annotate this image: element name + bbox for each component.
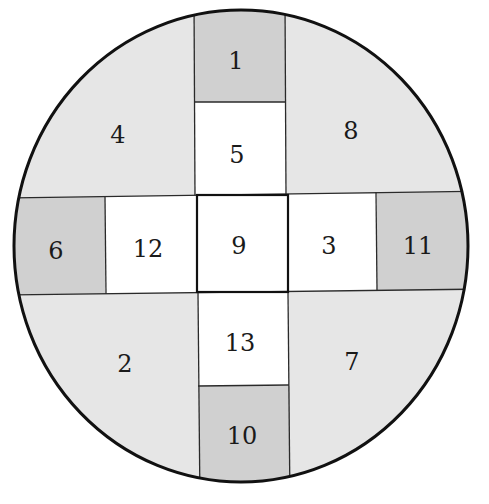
cross-circle-diagram: 1 4 5 8 6 12 9 3 11 2 13 7 10 [0,0,489,504]
label-9: 9 [231,232,246,260]
label-2: 2 [117,350,132,378]
label-5: 5 [229,141,244,169]
label-11: 11 [403,232,434,260]
label-6: 6 [48,237,63,265]
label-4: 4 [110,121,125,149]
label-13: 13 [225,329,256,357]
label-1: 1 [228,47,243,75]
label-3: 3 [321,232,336,260]
label-8: 8 [343,117,358,145]
label-12: 12 [133,235,164,263]
label-7: 7 [344,348,359,376]
label-10: 10 [227,422,258,450]
